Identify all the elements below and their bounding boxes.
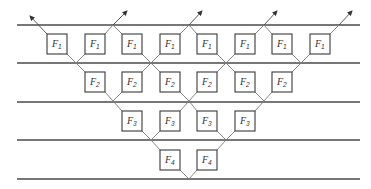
node-f3: F3 [235, 111, 255, 131]
stage-f4: F4 F4 [160, 150, 217, 170]
node-f2: F2 [197, 72, 217, 92]
node-f1: F1 [235, 34, 255, 54]
output-arrows [30, 11, 352, 34]
node-f2: F2 [122, 72, 142, 92]
node-f3: F3 [197, 111, 217, 131]
node-f2: F2 [160, 72, 180, 92]
node-f1: F1 [310, 34, 330, 54]
node-f1: F1 [197, 34, 217, 54]
node-f1: F1 [160, 34, 180, 54]
node-f4: F4 [160, 150, 180, 170]
arrow-icon [264, 11, 277, 25]
node-f1: F1 [47, 34, 67, 54]
node-f1: F1 [122, 34, 142, 54]
stage-f1: F1 F1 F1 F1 F1 F1 F1 F1 [47, 34, 330, 54]
node-f1: F1 [85, 34, 105, 54]
node-f2: F2 [272, 72, 292, 92]
node-f3: F3 [122, 111, 142, 131]
node-f4: F4 [197, 150, 217, 170]
arrow-icon [189, 11, 202, 25]
arrow-icon [113, 11, 127, 25]
butterfly-diagram: F1 F1 F1 F1 F1 F1 F1 F1 F2 F2 F2 F2 F2 F… [0, 0, 371, 189]
node-f2: F2 [235, 72, 255, 92]
stage-f2: F2 F2 F2 F2 F2 F2 [85, 72, 292, 92]
node-f3: F3 [160, 111, 180, 131]
node-f1: F1 [272, 34, 292, 54]
stage-f3: F3 F3 F3 F3 [122, 111, 255, 131]
node-f2: F2 [85, 72, 105, 92]
arrow-icon [339, 11, 352, 25]
